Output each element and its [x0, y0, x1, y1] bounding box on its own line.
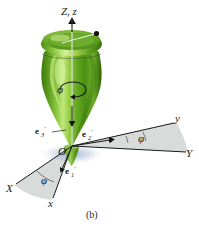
label-e3-prime: ′: [44, 125, 46, 132]
label-origin: O: [58, 145, 66, 157]
label-angle-left: φ: [41, 174, 47, 186]
label-e1-symbol: e: [65, 166, 69, 176]
label-e1-prime: ′: [74, 165, 76, 172]
string-end-bead: [94, 31, 99, 36]
label-axis-Y: Y: [186, 147, 194, 159]
label-axis-y: y: [174, 112, 180, 124]
label-axis-x: x: [47, 197, 53, 209]
figure-caption: (b): [86, 209, 98, 221]
label-e2-prime: ′: [91, 128, 93, 135]
physics-diagram-spinning-top: Z, z Y y X x O φ φ φ e 1 ′ e 2 ′ e 3 ′ (…: [0, 0, 199, 228]
label-e3-subscript: 3: [40, 131, 45, 138]
label-axis-X: X: [5, 182, 14, 194]
label-e1-subscript: 1: [71, 171, 74, 178]
label-unit-vector-e2: e 2 ′: [82, 128, 93, 141]
label-e2-subscript: 2: [88, 134, 92, 141]
top-face-highlight: [50, 34, 70, 41]
label-e2-symbol: e: [82, 129, 86, 139]
label-angle-right: φ: [138, 132, 144, 144]
label-angle-spin: φ: [57, 83, 63, 95]
top-body-glint: [55, 59, 66, 85]
label-unit-vector-e3: e 3 ′: [35, 125, 46, 138]
label-unit-vector-e1: e 1 ′: [65, 165, 76, 178]
label-e3-symbol: e: [35, 126, 39, 136]
label-vertical-axis: Z, z: [61, 5, 78, 17]
